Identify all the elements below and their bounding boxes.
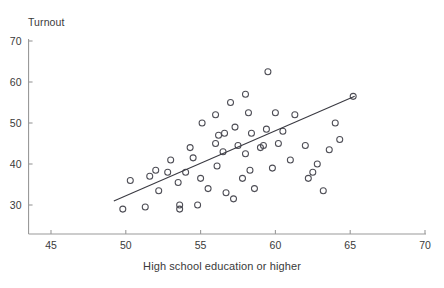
x-axis: 455055606570 <box>29 230 431 251</box>
data-point <box>337 136 343 142</box>
data-point <box>198 175 204 181</box>
data-point <box>228 100 234 106</box>
data-point <box>287 157 293 163</box>
x-tick-label: 55 <box>195 239 207 251</box>
data-point <box>275 141 281 147</box>
data-point <box>232 124 238 130</box>
x-tick-label: 50 <box>120 239 132 251</box>
data-point <box>214 163 220 169</box>
data-point <box>292 112 298 118</box>
data-point <box>245 110 251 116</box>
data-point <box>248 130 254 136</box>
data-point <box>320 188 326 194</box>
data-point <box>272 110 278 116</box>
data-point <box>168 157 174 163</box>
data-point <box>175 179 181 185</box>
data-point <box>269 165 275 171</box>
data-point <box>310 169 316 175</box>
data-point <box>242 91 248 97</box>
data-point <box>302 143 308 149</box>
data-point <box>216 132 222 138</box>
x-tick-label: 45 <box>45 239 57 251</box>
data-point <box>251 186 257 192</box>
y-tick-label: 40 <box>10 158 22 170</box>
x-axis-title: High school education or higher <box>0 260 444 272</box>
y-axis: 3040506070 <box>10 35 33 234</box>
scatter-plot-figure: Turnout 3040506070 455055606570 High sch… <box>0 0 444 288</box>
data-point <box>242 151 248 157</box>
data-point <box>223 190 229 196</box>
data-point <box>120 206 126 212</box>
data-point <box>213 112 219 118</box>
data-point <box>199 120 205 126</box>
data-point <box>205 186 211 192</box>
x-tick-label: 70 <box>419 239 431 251</box>
data-point <box>177 206 183 212</box>
data-point <box>305 175 311 181</box>
data-point <box>156 188 162 194</box>
data-point <box>127 177 133 183</box>
regression-line <box>114 96 355 201</box>
data-point <box>147 173 153 179</box>
data-point <box>231 196 237 202</box>
data-point <box>195 202 201 208</box>
data-point-markers <box>120 69 356 212</box>
x-tick-label: 60 <box>270 239 282 251</box>
data-point <box>280 128 286 134</box>
data-point <box>222 130 228 136</box>
y-tick-label: 30 <box>10 199 22 211</box>
data-point <box>239 175 245 181</box>
data-point <box>326 147 332 153</box>
data-point <box>165 169 171 175</box>
x-tick-label: 65 <box>344 239 356 251</box>
data-point <box>332 120 338 126</box>
data-point <box>247 167 253 173</box>
regression-line-path <box>114 96 355 201</box>
y-tick-label: 50 <box>10 117 22 129</box>
data-point <box>153 167 159 173</box>
data-point <box>263 126 269 132</box>
data-point <box>265 69 271 75</box>
data-point <box>142 204 148 210</box>
data-point <box>187 145 193 151</box>
y-tick-label: 70 <box>10 35 22 47</box>
data-point <box>314 161 320 167</box>
data-point <box>213 141 219 147</box>
y-tick-label: 60 <box>10 76 22 88</box>
data-point <box>190 155 196 161</box>
plot-canvas: 3040506070 455055606570 <box>0 0 444 288</box>
